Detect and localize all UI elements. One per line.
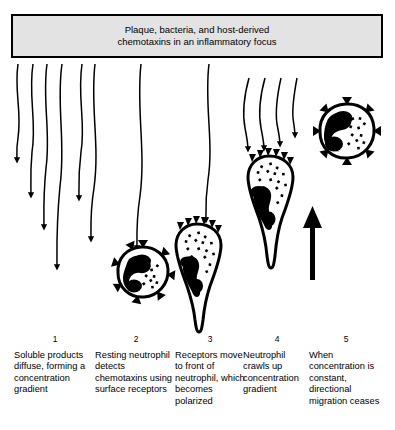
diffusion-arrow-7 [137,64,142,249]
caption-number-2: 2 [95,334,177,344]
caption-step-4: 4 Neutrophil crawls up concentration gra… [243,334,311,396]
caption-number-4: 4 [243,334,311,344]
diffusion-arrow-11 [276,78,281,145]
neutrophil-migrating [248,148,294,268]
caption-text-2: Resting neutrophil detects chemotaxins u… [95,350,177,396]
diffusion-arrows-group-mid [137,64,210,249]
diffusion-arrow-6 [91,64,96,240]
cell-membrane-migrating [248,156,293,268]
neutrophil-resting [111,240,175,304]
caption-text-3: Receptors move to front of neutrophil, w… [175,350,245,407]
chemotaxis-figure: Plaque, bacteria, and host-derived chemo… [0,0,395,430]
caption-row: 1 Soluble products diffuse, forming a co… [0,334,395,430]
diffusion-arrow-8 [206,64,210,221]
caption-step-5: 5 When concentration is constant, direct… [309,334,383,407]
diffusion-arrow-5 [79,64,83,199]
granules-resting [142,260,159,289]
surface-receptors-polarized [177,216,222,233]
nucleus-nondirectional [324,111,353,152]
surface-receptors-migrating [249,148,294,165]
cell-membrane-nondirectional [320,104,374,158]
neutrophil-nondirectional [313,97,381,165]
migration-direction-arrow [303,206,322,280]
diffusion-arrow-4 [57,64,62,268]
nucleus-migrating [251,186,276,230]
diffusion-arrow-12 [293,78,297,136]
diffusion-arrow-1 [17,64,19,161]
diffusion-arrow-10 [260,78,265,149]
caption-number-1: 1 [14,334,96,344]
caption-step-3: 3 Receptors move to front of neutrophil,… [175,334,245,407]
caption-number-5: 5 [309,334,383,344]
surface-receptors-resting [111,240,175,304]
granules-nondirectional [347,117,366,150]
neutrophil-polarized [176,216,222,332]
cell-membrane-polarized [176,224,221,332]
caption-number-3: 3 [175,334,245,344]
caption-text-4: Neutrophil crawls up concentration gradi… [243,350,311,396]
surface-receptors-nondirectional [313,97,381,165]
diffusion-arrow-9 [244,78,249,150]
diffusion-arrows-group [17,64,96,268]
caption-step-1: 1 Soluble products diffuse, forming a co… [14,334,96,396]
diffusion-arrow-2 [31,64,34,196]
caption-step-2: 2 Resting neutrophil detects chemotaxins… [95,334,177,396]
diffusion-arrows-group-right [244,78,297,150]
header-banner: Plaque, bacteria, and host-derived chemo… [11,14,383,58]
granules-migrating [257,162,288,204]
diffusion-arrow-3 [44,64,48,228]
granules-polarized [185,231,216,273]
caption-text-5: When concentration is constant, directio… [309,350,383,407]
header-line-1: Plaque, bacteria, and host-derived [125,24,270,37]
header-line-2: chemotaxins in an inflammatory focus [118,36,277,49]
nucleus-polarized [180,256,203,297]
nucleus-resting [123,255,151,293]
cell-membrane-resting [118,247,168,297]
caption-text-1: Soluble products diffuse, forming a conc… [14,350,96,396]
